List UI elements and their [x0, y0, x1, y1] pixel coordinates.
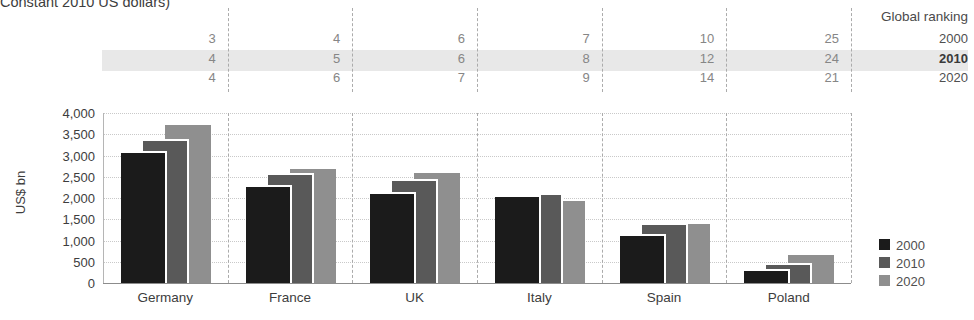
legend-swatch-2010 [879, 257, 890, 268]
ranking-year-label: 2000 [908, 31, 968, 46]
ranking-value: 12 [654, 51, 714, 66]
ranking-value: 6 [405, 31, 465, 46]
ranking-value: 3 [156, 31, 216, 46]
bar-italy-2000 [495, 195, 541, 283]
ranking-value: 14 [654, 70, 714, 85]
ranking-value: 9 [530, 70, 590, 85]
y-axis-tick-label: 3,500 [33, 127, 95, 142]
x-axis-category-label: Germany [103, 290, 228, 305]
ranking-value: 10 [654, 31, 714, 46]
ranking-value: 4 [156, 51, 216, 66]
ranking-column-separator [352, 8, 353, 92]
ranking-value: 4 [156, 70, 216, 85]
y-axis-tick-label: 4,000 [33, 106, 95, 121]
bar-uk-2000 [370, 192, 416, 283]
category-separator [851, 113, 852, 283]
ranking-value: 8 [530, 51, 590, 66]
category-separator [602, 113, 603, 283]
bar-germany-2000 [121, 151, 167, 283]
y-axis-tick-label: 1,000 [33, 234, 95, 249]
ranking-value: 6 [280, 70, 340, 85]
legend-label-2010: 2010 [896, 256, 925, 271]
ranking-column-separator [602, 8, 603, 92]
figure-subtitle: Constant 2010 US dollars) [0, 0, 170, 10]
ranking-column-separator [477, 8, 478, 92]
y-axis-tick-label: 1,500 [33, 212, 95, 227]
legend-swatch-2000 [879, 239, 890, 250]
y-axis-tick-label: 0 [33, 276, 95, 291]
category-separator [477, 113, 478, 283]
ranking-value: 25 [779, 31, 839, 46]
bar-spain-2000 [620, 234, 666, 283]
x-axis-category-label: UK [352, 290, 477, 305]
ranking-value: 4 [280, 31, 340, 46]
ranking-column-separator [851, 8, 852, 92]
x-axis-line [103, 283, 851, 284]
global-ranking-header: Global ranking [838, 9, 968, 24]
ranking-value: 24 [779, 51, 839, 66]
x-axis-category-label: Italy [477, 290, 602, 305]
y-axis-label: US$ bn [13, 155, 28, 231]
y-axis-tick-label: 3,000 [33, 149, 95, 164]
ranking-year-label: 2010 [908, 51, 968, 66]
y-axis-tick-label: 500 [33, 255, 95, 270]
bar-france-2000 [246, 185, 292, 283]
legend-label-2000: 2000 [896, 238, 925, 253]
category-separator [228, 113, 229, 283]
legend-label-2020: 2020 [896, 274, 925, 289]
x-axis-category-label: Poland [726, 290, 851, 305]
category-separator [726, 113, 727, 283]
legend-swatch-2020 [879, 275, 890, 286]
ranking-column-separator [228, 8, 229, 92]
ranking-value: 7 [530, 31, 590, 46]
x-axis-category-label: France [228, 290, 353, 305]
ranking-column-separator [726, 8, 727, 92]
gdp-bar-chart-figure: Constant 2010 US dollars) Global ranking… [0, 0, 974, 320]
ranking-value: 7 [405, 70, 465, 85]
bar-poland-2000 [744, 269, 790, 283]
ranking-value: 6 [405, 51, 465, 66]
ranking-year-label: 2020 [908, 70, 968, 85]
ranking-value: 21 [779, 70, 839, 85]
category-separator [352, 113, 353, 283]
y-axis-tick-label: 2,500 [33, 170, 95, 185]
y-axis-line [103, 113, 104, 283]
y-axis-tick-label: 2,000 [33, 191, 95, 206]
x-axis-category-label: Spain [602, 290, 727, 305]
ranking-value: 5 [280, 51, 340, 66]
